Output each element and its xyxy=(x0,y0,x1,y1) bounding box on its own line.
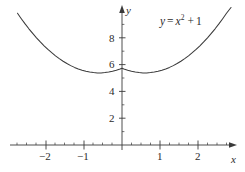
equation-plus: + xyxy=(187,15,194,27)
equation-exponent: 2 xyxy=(181,13,185,22)
y-tick-label-8: 8 xyxy=(109,33,115,44)
y-tick-label-4: 4 xyxy=(109,86,115,97)
x-tick-label-2: 2 xyxy=(195,151,201,162)
x-axis-arrowhead xyxy=(229,142,237,148)
x-axis-label: x xyxy=(231,154,236,165)
equation-constant: 1 xyxy=(196,15,202,27)
equation-equals: = xyxy=(167,15,174,27)
y-axis-label: y xyxy=(126,5,131,16)
y-axis-arrowhead xyxy=(119,5,125,13)
x-tick-label-neg1: −1 xyxy=(77,151,89,162)
x-tick-label-1: 1 xyxy=(157,151,163,162)
plot-canvas xyxy=(0,0,245,172)
y-tick-label-2: 2 xyxy=(109,113,115,124)
function-plot-figure: −2 −1 1 2 2 4 6 8 x y y=x2+1 xyxy=(0,0,245,172)
equation-lhs: y xyxy=(160,15,165,27)
y-tick-label-6: 6 xyxy=(109,59,115,70)
x-tick-label-neg2: −2 xyxy=(39,151,51,162)
equation-annotation: y=x2+1 xyxy=(160,16,202,28)
